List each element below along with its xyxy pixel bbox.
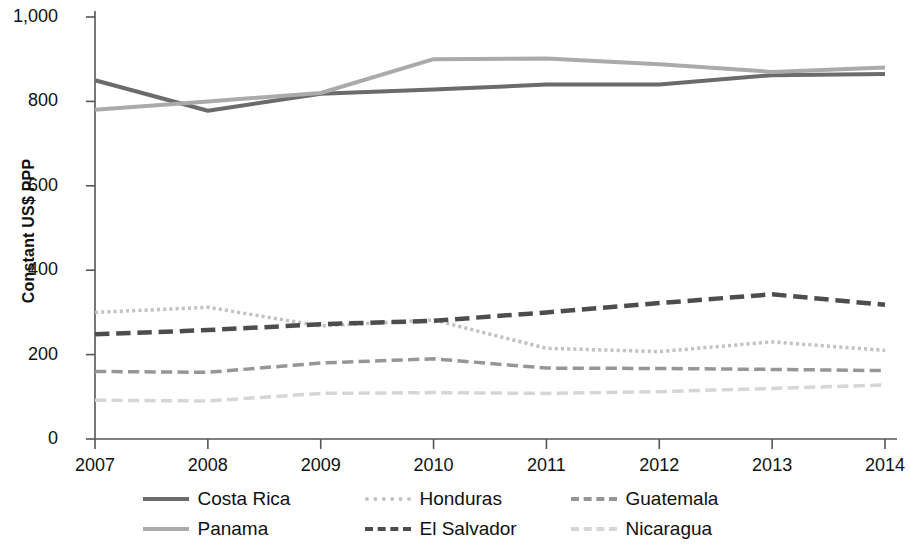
legend-item-guatemala[interactable]: Guatemala [571, 488, 761, 510]
series-line-nicaragua [95, 385, 885, 401]
y-axis-tick-label: 1,000 [0, 6, 58, 27]
legend-label: El Salvador [420, 518, 517, 540]
legend-label: Guatemala [626, 488, 719, 510]
legend-swatch-icon [143, 527, 189, 531]
legend-swatch-icon [365, 527, 411, 531]
series-line-costa-rica [95, 74, 885, 111]
chart-legend: Costa RicaHondurasGuatemalaPanamaEl Salv… [0, 484, 903, 544]
series-line-panama [95, 58, 885, 109]
x-axis-tick-label: 2010 [394, 455, 474, 476]
series-line-guatemala [95, 359, 885, 373]
plot-svg [0, 0, 903, 470]
legend-item-honduras[interactable]: Honduras [365, 488, 545, 510]
legend-label: Panama [198, 518, 269, 540]
legend-label: Costa Rica [198, 488, 291, 510]
legend-swatch-icon [571, 497, 617, 501]
x-axis-tick-label: 2009 [281, 455, 361, 476]
y-axis-tick-label: 0 [0, 428, 58, 449]
x-axis-tick-label: 2012 [619, 455, 699, 476]
y-axis-tick-label: 400 [0, 259, 58, 280]
legend-swatch-icon [143, 497, 189, 501]
y-axis-tick-label: 600 [0, 175, 58, 196]
series-line-el-salvador [95, 294, 885, 334]
legend-item-costa-rica[interactable]: Costa Rica [143, 488, 339, 510]
legend-item-panama[interactable]: Panama [143, 518, 339, 540]
y-axis-tick-label: 200 [0, 344, 58, 365]
legend-row: Costa RicaHondurasGuatemala [0, 484, 903, 514]
x-axis-tick-label: 2014 [845, 455, 910, 476]
legend-swatch-icon [365, 497, 411, 501]
legend-item-el-salvador[interactable]: El Salvador [365, 518, 545, 540]
x-axis-tick-label: 2008 [168, 455, 248, 476]
legend-label: Nicaragua [626, 518, 713, 540]
legend-label: Honduras [420, 488, 502, 510]
y-axis-tick-label: 800 [0, 90, 58, 111]
plot-area [0, 0, 903, 470]
legend-item-nicaragua[interactable]: Nicaragua [571, 518, 761, 540]
x-axis-tick-label: 2011 [506, 455, 586, 476]
x-axis-tick-label: 2007 [55, 455, 135, 476]
legend-row: PanamaEl SalvadorNicaragua [0, 514, 903, 544]
legend-swatch-icon [571, 527, 617, 531]
x-axis-tick-label: 2013 [732, 455, 812, 476]
